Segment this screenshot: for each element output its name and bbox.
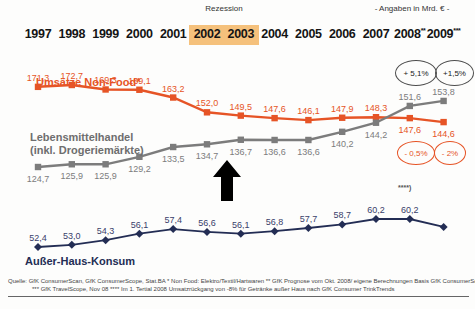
badge-food-2008: + 5,1% bbox=[395, 60, 437, 86]
source-footer: Quelle: GfK ConsumerScan, GfK ConsumerSc… bbox=[8, 278, 469, 297]
source-line-1: Quelle: GfK ConsumerScan, GfK ConsumerSc… bbox=[8, 278, 469, 286]
series-label-food-retail-line2: (inkl. Drogeriemärkte) bbox=[30, 144, 144, 157]
series-label-food-retail-line1: Lebensmittelhandel bbox=[30, 131, 144, 144]
series-label-nonfood: Umsätze Non-Food* bbox=[36, 76, 141, 89]
footnote-marker: ****) bbox=[398, 184, 411, 191]
series-label-food-retail: Lebensmittelhandel (inkl. Drogeriemärkte… bbox=[30, 131, 144, 156]
chart-canvas: Rezession - Angaben in Mrd. € - 19971998… bbox=[0, 0, 475, 309]
badge-nonfood-2009: - 2% bbox=[434, 141, 466, 165]
badge-food-2009: +1,5% bbox=[435, 60, 474, 86]
series-label-out-of-home: Außer-Haus-Konsum bbox=[25, 255, 135, 268]
badge-nonfood-2008: - 0,5% bbox=[397, 141, 435, 165]
source-line-2: *** GfK TravelScope, Nov 08 **** Im 1. T… bbox=[32, 286, 469, 294]
